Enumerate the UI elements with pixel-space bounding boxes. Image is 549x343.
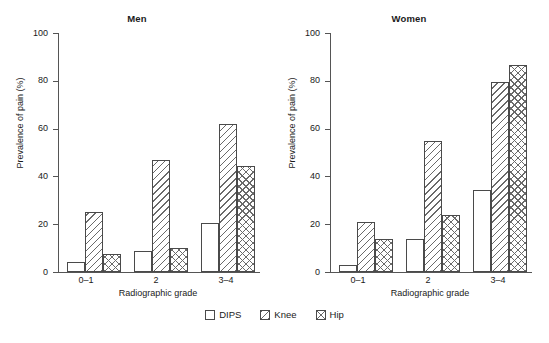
legend-swatch-hip-icon [316,310,326,320]
bar-women-g2-dips [473,190,491,273]
x-tick-label-2-women: 2 [405,275,451,285]
bar-men-g2-dips [201,223,219,272]
bar-women-g2-hip [509,65,527,272]
bar-men-g2-hip [237,166,255,272]
y-tick-label-80-women: 80 [280,76,320,85]
x-axis-line-men [58,272,260,273]
legend-item-dips: DIPS [205,309,241,320]
y-tick-label-0-women: 0 [280,268,320,277]
bar-men-g1-dips [134,251,152,273]
bar-men-g0-hip [103,254,121,272]
bar-women-g0-dips [339,265,357,272]
legend-swatch-dips-icon [205,310,215,320]
y-tick-label-60-women: 60 [280,124,320,133]
y-axis-title-men: Prevalence of pain (%) [15,18,25,228]
legend-item-knee: Knee [260,309,296,320]
bar-men-g1-hip [170,248,188,272]
x-axis-line-women [330,272,532,273]
y-tick-label-20-men: 20 [8,220,48,229]
x-tick-label-3-4-women: 3–4 [475,275,521,285]
y-tick-label-100-men: 100 [8,29,48,38]
y-axis-title-women: Prevalence of pain (%) [287,18,297,228]
bar-women-g1-dips [406,239,424,273]
y-tick-label-40-women: 40 [280,172,320,181]
plot-area-men [58,33,258,272]
bar-women-g2-knee [491,82,509,272]
y-tick-label-80-men: 80 [8,76,48,85]
y-tick-label-0-men: 0 [8,268,48,277]
bar-women-g0-knee [357,222,375,272]
x-tick-label-2-men: 2 [133,275,179,285]
x-tick-label-3-4-men: 3–4 [203,275,249,285]
bar-men-g0-dips [67,262,85,272]
legend-swatch-knee-icon [260,310,270,320]
bar-women-g0-hip [375,239,393,273]
x-tick-label-0-1-women: 0–1 [335,275,381,285]
legend-label-knee: Knee [274,309,296,320]
y-tick-label-20-women: 20 [280,220,320,229]
bar-men-g2-knee [219,124,237,272]
y-tick-label-60-men: 60 [8,124,48,133]
bar-men-g0-knee [85,212,103,272]
chart-legend: DIPS Knee Hip [0,309,549,320]
panel-title-men: Men [0,13,274,24]
bar-men-g1-knee [152,160,170,272]
panel-men: Men 100 80 60 40 20 0 Prevalence of pain… [0,0,274,300]
bar-women-g1-knee [424,141,442,273]
y-tick-0-men [53,272,58,273]
x-tick-label-0-1-men: 0–1 [63,275,109,285]
x-axis-title-women: Radiographic grade [330,288,530,298]
legend-item-hip: Hip [316,309,344,320]
legend-label-hip: Hip [330,309,344,320]
figure-two-panel-bar-chart: Men 100 80 60 40 20 0 Prevalence of pain… [0,0,549,343]
legend-label-dips: DIPS [219,309,241,320]
plot-area-women [330,33,530,272]
y-tick-label-100-women: 100 [280,29,320,38]
panel-title-women: Women [272,13,546,24]
x-axis-title-men: Radiographic grade [58,288,258,298]
panel-women: Women 100 80 60 40 20 0 Prevalence of pa… [272,0,546,300]
bar-women-g1-hip [442,215,460,272]
y-tick-label-40-men: 40 [8,172,48,181]
y-tick-0-women [325,272,330,273]
